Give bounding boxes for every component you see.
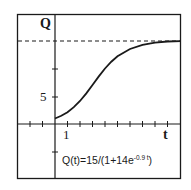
x-tick-label-1: 1 (63, 128, 70, 141)
q-axis-label: Q (40, 17, 51, 31)
formula-exponent: -0.9 t (134, 154, 149, 161)
logistic-curve (55, 41, 180, 119)
formula-annotation: Q(t)=15/(1+14e-0.9 t) (62, 155, 152, 166)
formula-end: ) (149, 154, 153, 166)
y-tick-label-5: 5 (40, 90, 47, 103)
t-axis-label: t (163, 128, 168, 142)
formula-main: Q(t)=15/(1+14e (62, 154, 134, 166)
